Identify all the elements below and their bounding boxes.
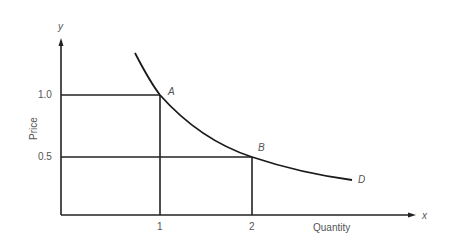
point-b-label: B <box>258 142 265 153</box>
x-axis-var-label: x <box>421 210 428 221</box>
x-axis-title: Quantity <box>313 222 350 233</box>
demand-curve <box>135 53 352 180</box>
y-axis-title: Price <box>28 117 39 140</box>
x-tick-1: 1 <box>157 221 163 232</box>
y-axis-arrow-icon <box>59 38 64 46</box>
point-a-label: A <box>167 86 175 97</box>
y-axis-var-label: y <box>57 21 64 32</box>
curve-d-label: D <box>358 174 365 185</box>
y-tick-1.0: 1.0 <box>38 89 52 100</box>
x-axis-arrow-icon <box>408 213 416 218</box>
y-tick-0.5: 0.5 <box>38 151 52 162</box>
x-tick-2: 2 <box>249 221 255 232</box>
demand-curve-chart: y x 1.0 0.5 1 2 Quantity Price A B D <box>0 0 453 248</box>
